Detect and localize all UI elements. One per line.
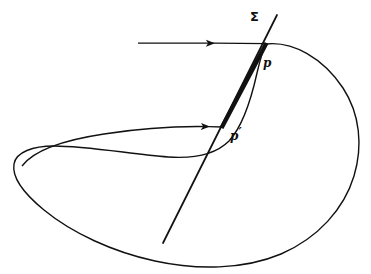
closed-orbit-curve: [14, 44, 359, 267]
figure-canvas: Σ p p′: [0, 0, 371, 274]
sigma-label: Σ: [250, 10, 259, 23]
point-p-prime-label: p′: [230, 127, 242, 143]
point-p-label: p: [263, 57, 271, 69]
diagram-svg: [0, 0, 371, 274]
transversal-section-sigma-line: [163, 15, 277, 243]
prime-mark: ′: [238, 126, 241, 140]
incoming-trajectory-to-p-prime: [22, 126, 222, 166]
